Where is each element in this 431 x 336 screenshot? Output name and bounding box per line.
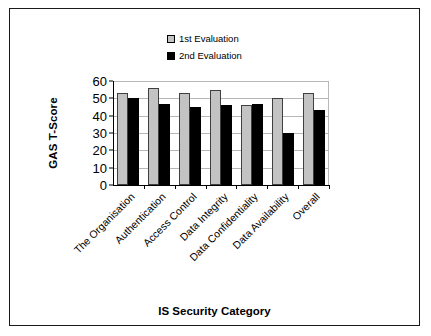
bar-second-evaluation [159,104,170,185]
plot-area: 0102030405060 [113,81,329,185]
y-tick-label: 30 [93,127,107,140]
bar-first-evaluation [117,93,128,185]
y-tick-label: 50 [93,92,107,105]
bar-group [148,81,170,185]
legend-label-1st-evaluation: 1st Evaluation [179,34,239,44]
bar-group [241,81,263,185]
bar-group [210,81,232,185]
chart-figure-frame: 1st Evaluation 2nd Evaluation GAS T-Scor… [9,8,420,326]
bar-second-evaluation [128,98,139,185]
legend-item-1st-evaluation: 1st Evaluation [167,32,297,46]
bar-second-evaluation [221,105,232,185]
y-axis-title-text: GAS T-Score [47,97,59,168]
y-tick-label: 10 [93,161,107,174]
bar-second-evaluation [283,133,294,185]
bar-first-evaluation [148,88,159,185]
bar-first-evaluation [210,90,221,185]
bar-group [179,81,201,185]
y-tick-label: 60 [93,75,107,88]
bar-first-evaluation [179,93,190,185]
legend-swatch-black-icon [167,52,175,60]
bar-group [272,81,294,185]
bar-first-evaluation [241,105,252,185]
bar-group [303,81,325,185]
y-tick-label: 40 [93,109,107,122]
bar-first-evaluation [272,98,283,185]
chart-legend: 1st Evaluation 2nd Evaluation [167,32,297,66]
x-axis-category-labels: The OrganisationAuthenticationAccess Con… [113,185,353,290]
bar-second-evaluation [252,104,263,185]
legend-swatch-gray-icon [167,35,175,43]
bar-first-evaluation [303,93,314,185]
legend-item-2nd-evaluation: 2nd Evaluation [167,49,297,63]
x-axis-title: IS Security Category [10,305,419,317]
y-tick-label: 0 [100,179,107,192]
bar-second-evaluation [314,110,325,185]
y-axis-line [113,81,114,185]
bar-group [117,81,139,185]
x-category-label: Overall [291,191,322,222]
y-tick-label: 20 [93,144,107,157]
x-axis-title-text: IS Security Category [158,305,270,317]
bar-second-evaluation [190,107,201,185]
y-axis-title: GAS T-Score [46,81,60,185]
legend-label-2nd-evaluation: 2nd Evaluation [179,51,242,61]
